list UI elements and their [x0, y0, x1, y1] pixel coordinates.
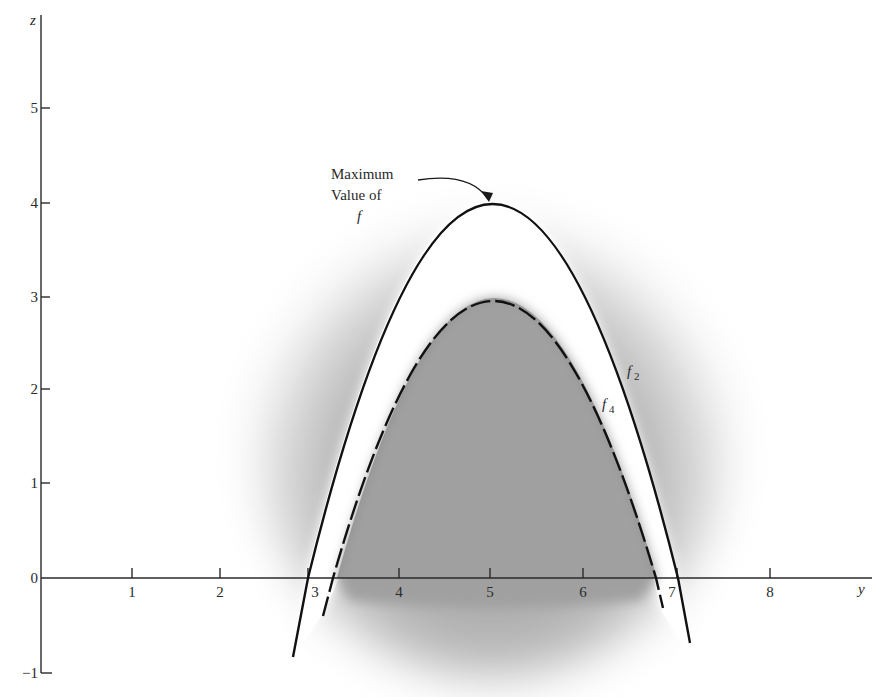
- svg-text:5: 5: [31, 100, 39, 116]
- svg-text:Value of: Value of: [331, 187, 381, 203]
- svg-text:5: 5: [486, 584, 494, 600]
- svg-text:Maximum: Maximum: [331, 166, 394, 182]
- svg-text:1: 1: [128, 584, 136, 600]
- svg-text:3: 3: [31, 289, 39, 305]
- svg-text:−1: −1: [22, 665, 38, 681]
- svg-text:4: 4: [31, 195, 39, 211]
- svg-text:2: 2: [634, 370, 640, 382]
- svg-text:1: 1: [31, 475, 39, 491]
- svg-text:2: 2: [216, 584, 224, 600]
- svg-text:0: 0: [31, 570, 39, 586]
- svg-text:4: 4: [609, 403, 615, 415]
- svg-text:8: 8: [766, 584, 774, 600]
- svg-text:7: 7: [668, 584, 676, 600]
- z-tick-labels: 5 4 3 2 1 0 −1: [22, 100, 38, 681]
- svg-text:6: 6: [579, 584, 587, 600]
- z-axis-label: z: [29, 12, 36, 28]
- chart: 5 4 3 2 1 0 −1 z 1 2 3 4 5 6 7 8 y Maxim…: [0, 0, 892, 697]
- svg-text:2: 2: [31, 381, 39, 397]
- svg-text:4: 4: [395, 584, 403, 600]
- y-axis-label: y: [856, 581, 865, 597]
- svg-text:3: 3: [311, 584, 319, 600]
